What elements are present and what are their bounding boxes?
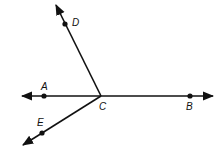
geometry-diagram: A B C D E [0,0,224,154]
ray-CE [23,96,101,145]
point-B [187,93,192,98]
label-C: C [99,101,107,112]
point-D [62,21,67,26]
point-E [39,130,44,135]
label-B: B [186,101,193,112]
label-A: A [40,81,48,92]
point-A [41,93,46,98]
label-E: E [37,117,44,128]
label-D: D [72,17,79,28]
